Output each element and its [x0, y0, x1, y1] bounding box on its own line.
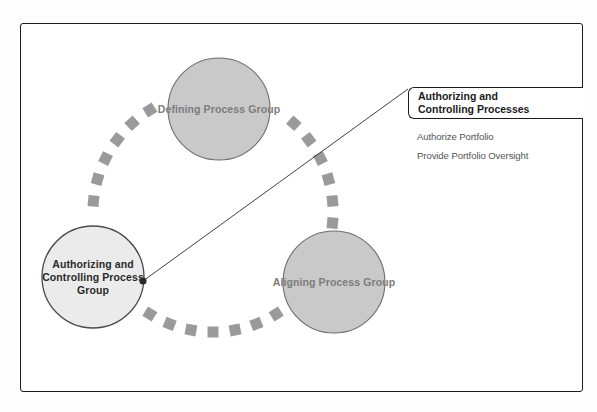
ring-dash-segment: [208, 327, 219, 338]
diagram-canvas: Defining Process Group Authorizing and C…: [0, 0, 597, 412]
ring-dash-segment: [185, 324, 198, 337]
ring-dash-segment: [327, 217, 339, 229]
process-group-circle-authorizing-controlling: [42, 226, 144, 328]
ring-dash-segment: [327, 195, 339, 207]
callout-box: Authorizing and Controlling Processes: [408, 87, 583, 119]
callout-item-authorize-portfolio: Authorize Portfolio: [417, 131, 494, 142]
process-group-circle-aligning: [283, 231, 385, 333]
ring-dash-segment: [142, 102, 157, 117]
ring-dash-segment: [301, 132, 316, 147]
ring-dash-segment: [124, 116, 140, 132]
ring-dash-segment: [286, 116, 302, 132]
ring-dash-segment: [322, 172, 336, 186]
ring-dash-segment: [313, 151, 328, 166]
ring-dash-segment: [229, 324, 242, 337]
ring-dash-segment: [91, 172, 105, 186]
ring-dash-segment: [110, 132, 125, 147]
ring-dash-segment: [98, 151, 113, 166]
callout-item-provide-portfolio-oversight: Provide Portfolio Oversight: [417, 150, 528, 161]
ring-dash-segment: [142, 306, 157, 321]
process-group-circle-defining: [168, 58, 270, 160]
ring-dash-segment: [249, 317, 263, 331]
ring-dash-segment: [88, 195, 100, 207]
ring-dash-segment: [269, 306, 284, 321]
callout-title: Authorizing and Controlling Processes: [409, 90, 529, 117]
ring-dash-segment: [163, 317, 177, 331]
cycle-diagram-graphic: [0, 0, 597, 412]
leader-anchor-dot: [139, 277, 146, 284]
